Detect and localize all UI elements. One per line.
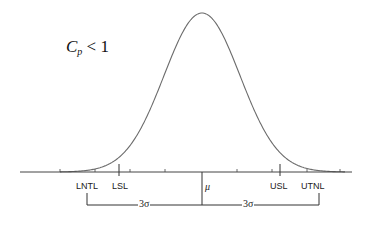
- lsl-label: LSL: [112, 182, 128, 191]
- cp-symbol: C: [66, 37, 77, 56]
- usl-label: USL: [270, 182, 288, 191]
- cp-condition-label: Cp < 1: [66, 38, 109, 57]
- right-3sigma-bracket: [202, 193, 319, 205]
- right-3sigma-label: 3σ: [242, 199, 254, 209]
- cp-relation: < 1: [82, 37, 109, 56]
- left-3sigma-label: 3σ: [138, 199, 150, 209]
- utnl-label: UTNL: [301, 182, 325, 191]
- lntl-label: LNTL: [76, 182, 98, 191]
- mu-label: μ: [205, 182, 210, 192]
